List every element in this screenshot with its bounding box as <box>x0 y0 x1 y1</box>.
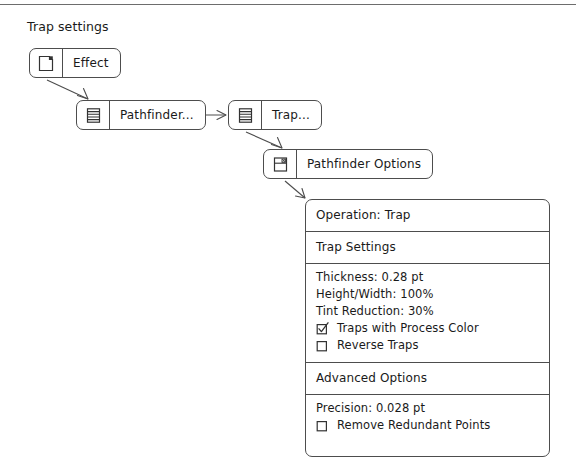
flow-node-pathfinder-options[interactable]: Pathfinder Options <box>263 149 433 179</box>
checkbox-traps-with-process-color-label: Traps with Process Color <box>337 320 479 337</box>
panel-section-operation: Operation: Trap <box>306 200 549 231</box>
field-tint-reduction: Tint Reduction: 30% <box>306 303 549 320</box>
field-precision: Precision: 0.028 pt <box>306 400 549 417</box>
panel-section-trap-settings-body: Thickness: 0.28 pt Height/Width: 100% Ti… <box>306 263 549 362</box>
checkbox-unchecked-icon <box>316 419 332 432</box>
flow-node-effect-label: Effect <box>63 49 120 77</box>
panel-section-advanced-options-heading: Advanced Options <box>306 362 549 394</box>
checkbox-remove-redundant-points[interactable]: Remove Redundant Points <box>306 417 549 434</box>
checkbox-checked-icon <box>316 322 332 335</box>
field-thickness: Thickness: 0.28 pt <box>306 269 549 286</box>
list-lines-icon <box>229 101 262 129</box>
field-height-width: Height/Width: 100% <box>306 286 549 303</box>
top-divider <box>0 4 576 5</box>
edge-effect-to-pathfinder <box>47 80 88 99</box>
trap-settings-heading: Trap Settings <box>306 238 549 257</box>
flow-node-pathfinder[interactable]: Pathfinder... <box>76 100 206 130</box>
flow-node-trap-label: Trap... <box>262 101 321 129</box>
edge-options-to-panel <box>285 181 305 198</box>
advanced-options-heading: Advanced Options <box>306 369 549 388</box>
checkbox-unchecked-icon <box>316 339 332 352</box>
checkbox-traps-with-process-color[interactable]: Traps with Process Color <box>306 320 549 337</box>
page-title: Trap settings <box>27 19 109 34</box>
checkbox-remove-redundant-points-label: Remove Redundant Points <box>337 417 490 434</box>
flow-node-trap[interactable]: Trap... <box>228 100 322 130</box>
checkbox-reverse-traps[interactable]: Reverse Traps <box>306 337 549 354</box>
flow-node-pathfinder-label: Pathfinder... <box>110 101 205 129</box>
operation-value: Operation: Trap <box>306 206 549 225</box>
document-page-icon <box>30 49 63 77</box>
list-lines-icon <box>77 101 110 129</box>
edge-trap-to-options <box>246 132 282 148</box>
flow-node-effect[interactable]: Effect <box>29 48 121 78</box>
dialog-window-icon <box>264 150 297 178</box>
checkbox-reverse-traps-label: Reverse Traps <box>337 337 419 354</box>
panel-section-advanced-options-body: Precision: 0.028 pt Remove Redundant Poi… <box>306 394 549 456</box>
flow-node-pathfinder-options-label: Pathfinder Options <box>297 150 432 178</box>
pathfinder-options-panel: Operation: Trap Trap Settings Thickness:… <box>305 199 550 457</box>
panel-section-trap-settings-heading: Trap Settings <box>306 231 549 263</box>
